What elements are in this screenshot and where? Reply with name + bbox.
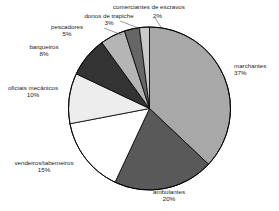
slice-label-barqueiros: barqueiros 8% (20, 43, 68, 58)
slice-label-ambulantes-name: ambulantes (153, 188, 185, 195)
slice-label-trapiche: donos de trapiche 3% (78, 12, 140, 27)
slice-label-oficiais-pct: 10% (0, 91, 66, 98)
slice-label-pescadores-pct: 5% (43, 30, 91, 37)
slice-label-marchantes-name: marchantes (234, 62, 266, 69)
slice-label-oficiais-name: oficiais mecânicos (8, 84, 58, 91)
slice-label-ambulantes: ambulantes 20% (140, 188, 198, 203)
slice-label-barqueiros-name: barqueiros (29, 43, 58, 50)
slice-label-marchantes: marchantes 37% (234, 62, 266, 77)
slice-label-escravos: comerciantes de escravos (113, 3, 185, 10)
pie-chart: marchantes 37% ambulantes 20% vendeiros/… (0, 0, 279, 211)
pie-slices (68, 27, 230, 190)
slice-label-vendeiros-name: vendeiros/tabemeiros (14, 159, 73, 166)
slice-label-barqueiros-pct: 8% (20, 50, 68, 57)
slice-label-trapiche-pct: 3% (78, 19, 140, 26)
slice-label-escravos-pct-wrap: 2% (153, 12, 162, 19)
slice-label-escravos-name: comerciantes de escravos (113, 3, 185, 10)
slice-label-vendeiros-pct: 15% (4, 166, 84, 173)
slice-label-escravos-pct: 2% (153, 12, 162, 19)
pie-chart-graphic (0, 0, 279, 211)
slice-label-marchantes-pct: 37% (234, 69, 266, 76)
slice-label-vendeiros: vendeiros/tabemeiros 15% (4, 159, 84, 174)
slice-label-ambulantes-pct: 20% (140, 195, 198, 202)
slice-label-oficiais: oficiais mecânicos 10% (0, 84, 66, 99)
leader-line (104, 28, 122, 35)
slice-label-trapiche-name: donos de trapiche (84, 12, 133, 19)
